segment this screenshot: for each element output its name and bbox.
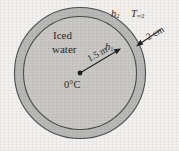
inner-convection-coefficient-subscript: 1	[110, 45, 113, 52]
contents-label-line1: Iced	[53, 30, 72, 41]
center-temperature-label: 0°C	[64, 80, 80, 91]
ambient-temperature-subscript: ∞2	[137, 12, 144, 19]
tank-cross-section-diagram	[0, 0, 179, 151]
figure-container: Iced water h1 h2 T∞2 2 cm 1.5 m 0°C	[0, 0, 179, 151]
center-point-marker	[78, 71, 83, 76]
outer-convection-coefficient-subscript: 2	[116, 12, 119, 19]
ambient-temperature-label: T∞2	[131, 9, 144, 20]
outer-convection-coefficient-label: h2	[111, 9, 119, 20]
contents-label-line2: water	[52, 44, 76, 55]
